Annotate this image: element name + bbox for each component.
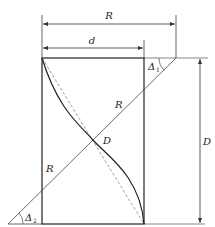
dashed-diagonal [42,58,144,224]
label-R-top: R [104,10,113,21]
label-delta2: Δ [24,212,32,223]
label-D-right: D [202,136,211,147]
label-R-upper: R [114,99,123,110]
diagram-canvas: R d D R D R Δ 1 Δ 2 [0,0,215,227]
label-delta1: Δ [147,61,155,72]
extension-lines [42,15,208,224]
label-delta2-sub: 2 [33,217,37,224]
label-d: d [89,35,95,46]
label-D-center: D [102,135,111,146]
diagonal-R-line [8,58,176,224]
angle-arc-delta2 [19,213,23,224]
label-delta1-sub: 1 [156,66,160,73]
label-R-lower: R [45,163,54,174]
